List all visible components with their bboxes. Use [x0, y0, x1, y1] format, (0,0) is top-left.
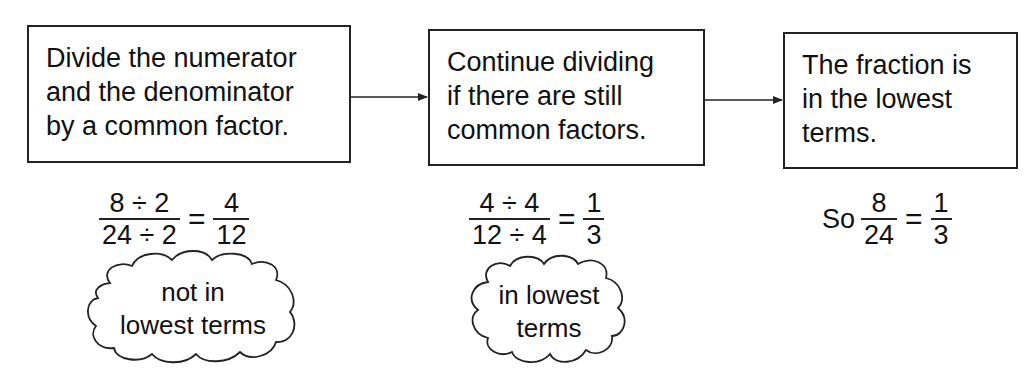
equation-3-lhs-fraction: 8 24: [861, 188, 897, 250]
equation-1-rhs-denominator: 12: [213, 220, 249, 250]
equation-1-lhs-denominator: 24 ÷ 2: [99, 220, 180, 250]
cloud-2-label: in lowest terms: [468, 279, 630, 345]
equals-sign: =: [558, 202, 576, 236]
equation-1-rhs-fraction: 4 12: [213, 188, 249, 250]
equation-3-lhs-numerator: 8: [869, 188, 890, 218]
equation-3-rhs-numerator: 1: [931, 188, 952, 218]
equation-2-lhs-numerator: 4 ÷ 4: [477, 188, 543, 218]
equation-3-rhs-fraction: 1 3: [931, 188, 952, 250]
equation-3-rhs-denominator: 3: [931, 220, 952, 250]
equals-sign: =: [188, 202, 206, 236]
equation-3: So 8 24 = 1 3: [822, 188, 952, 250]
cloud-2-line-1: in lowest: [468, 279, 630, 312]
cloud-1-line-1: not in: [90, 276, 296, 309]
equation-2-lhs-denominator: 12 ÷ 4: [469, 220, 550, 250]
equation-1-lhs-fraction: 8 ÷ 2 24 ÷ 2: [99, 188, 180, 250]
equals-sign: =: [905, 202, 923, 236]
equation-2-rhs-denominator: 3: [583, 220, 604, 250]
equation-1-rhs-numerator: 4: [221, 188, 242, 218]
cloud-1-line-2: lowest terms: [90, 309, 296, 342]
cloud-1-label: not in lowest terms: [90, 276, 296, 342]
equation-3-lhs-denominator: 24: [861, 220, 897, 250]
equation-2-rhs-numerator: 1: [583, 188, 604, 218]
equation-3-prefix: So: [822, 204, 855, 235]
equation-1-lhs-numerator: 8 ÷ 2: [107, 188, 173, 218]
equation-2: 4 ÷ 4 12 ÷ 4 = 1 3: [469, 188, 604, 250]
cloud-2-line-2: terms: [468, 312, 630, 345]
equation-1: 8 ÷ 2 24 ÷ 2 = 4 12: [99, 188, 249, 250]
equation-2-lhs-fraction: 4 ÷ 4 12 ÷ 4: [469, 188, 550, 250]
equation-2-rhs-fraction: 1 3: [583, 188, 604, 250]
